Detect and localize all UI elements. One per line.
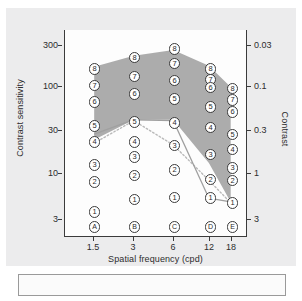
data-point-A-5: 5 (89, 120, 101, 132)
y-tickmark-right-2 (247, 130, 251, 131)
y-tickmark-left-2 (58, 130, 62, 131)
y-tickmark-left-1 (58, 86, 62, 87)
data-point-C-2: 2 (169, 164, 181, 176)
y-tick-left-2: 30 (28, 125, 58, 135)
data-point-B-4: 4 (129, 136, 141, 148)
data-point-D-1: 1 (205, 192, 217, 204)
y-tickmark-right-1 (247, 86, 251, 87)
data-point-A-8: 8 (89, 63, 101, 75)
x-tick-4: 18 (216, 242, 246, 252)
y-tickmark-left-3 (58, 173, 62, 174)
plot-graphics (65, 30, 246, 236)
x-tick-0: 1.5 (78, 242, 108, 252)
data-point-A-3: 3 (89, 159, 101, 171)
data-point-C-8: 8 (169, 43, 181, 55)
x-tick-2: 6 (158, 242, 188, 252)
data-point-E-7: 7 (227, 94, 239, 106)
y-tick-left-4: 3 (28, 214, 58, 224)
y-tick-left-0: 300 (28, 40, 58, 50)
column-letter-C: C (169, 221, 181, 233)
column-letter-B: B (129, 221, 141, 233)
column-letter-E: E (227, 221, 239, 233)
column-letter-A: A (89, 221, 101, 233)
x-tickmark-1 (133, 237, 134, 241)
data-point-A-2: 2 (89, 176, 101, 188)
x-tick-1: 3 (118, 242, 148, 252)
y-tick-right-3: 1 (254, 168, 288, 178)
data-point-E-6: 6 (227, 106, 239, 118)
figure-root: Contrast sensitivity Contrast Spatial fr… (0, 0, 302, 301)
data-point-C-5: 5 (169, 93, 181, 105)
x-tickmark-3 (209, 237, 210, 241)
y-tick-right-2: 0.3 (254, 125, 288, 135)
x-tickmark-2 (173, 237, 174, 241)
data-point-C-4: 4 (169, 117, 181, 129)
y-axis-title-left: Contrast sensitivity (15, 68, 25, 168)
data-point-B-6: 6 (129, 88, 141, 100)
y-tickmark-right-0 (247, 45, 251, 46)
chart-panel: Contrast sensitivity Contrast Spatial fr… (6, 8, 296, 266)
x-tickmark-4 (231, 237, 232, 241)
y-tick-left-3: 10 (28, 168, 58, 178)
data-point-B-5: 5 (129, 116, 141, 128)
y-tickmark-right-3 (247, 173, 251, 174)
data-point-A-4: 4 (89, 136, 101, 148)
column-letter-D: D (205, 221, 217, 233)
y-tickmark-left-4 (58, 219, 62, 220)
caption-box (18, 274, 286, 296)
y-tick-left-1: 100 (28, 81, 58, 91)
data-point-E-3: 3 (227, 162, 239, 174)
y-tickmark-left-0 (58, 45, 62, 46)
data-point-D-8: 8 (205, 63, 217, 75)
data-point-D-5: 5 (205, 101, 217, 113)
data-point-E-1: 1 (227, 197, 239, 209)
plot-area: 87654321A87654321B87654321C87654321D8765… (64, 30, 247, 237)
y-tick-right-4: 3 (254, 214, 288, 224)
x-axis-title: Spatial frequency (cpd) (64, 254, 247, 264)
data-point-B-3: 3 (129, 151, 141, 163)
data-point-A-6: 6 (89, 96, 101, 108)
y-tick-right-1: 0.1 (254, 81, 288, 91)
data-point-A-1: 1 (89, 206, 101, 218)
y-tick-right-0: 0.03 (254, 40, 288, 50)
x-tickmark-0 (93, 237, 94, 241)
y-tickmark-right-4 (247, 219, 251, 220)
